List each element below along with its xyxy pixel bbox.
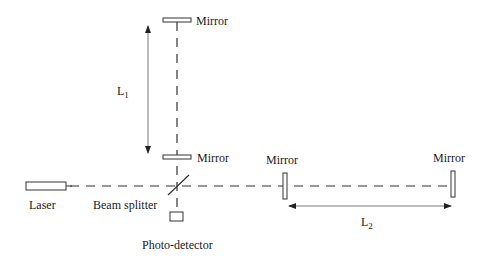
beam-splitter-label: Beam splitter	[93, 198, 157, 212]
laser-body	[26, 182, 66, 190]
l2-label: L2	[361, 215, 373, 231]
mirror-top-label: Mirror	[196, 14, 228, 28]
beam-paths	[70, 22, 452, 212]
mirror-right-near	[283, 173, 287, 199]
laser-label: Laser	[29, 198, 56, 212]
mirror-mid	[163, 155, 191, 159]
mirror-top	[163, 18, 191, 22]
interferometer-diagram: Laser Beam splitter Photo-detector Mirro…	[0, 0, 493, 259]
photo-detector-label: Photo-detector	[142, 238, 213, 252]
l1-label: L1	[117, 84, 129, 100]
photo-detector	[170, 212, 183, 221]
laser	[26, 182, 72, 190]
mirror-mid-label: Mirror	[197, 151, 229, 165]
mirror-right-far	[451, 171, 455, 197]
beam-splitter	[168, 175, 189, 195]
mirror-right-near-label: Mirror	[266, 153, 298, 167]
mirror-right-far-label: Mirror	[433, 151, 465, 165]
